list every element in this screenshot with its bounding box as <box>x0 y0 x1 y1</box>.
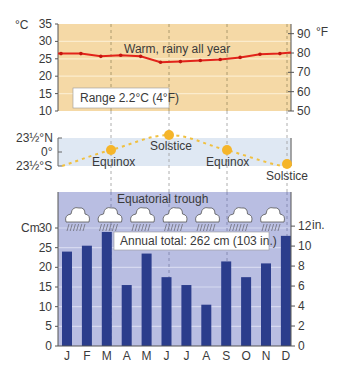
declination-south-label: 23½°S <box>16 159 52 173</box>
climograph: 101520253035 5060708090 °C °F Warm, rain… <box>0 0 340 372</box>
fahrenheit-tick: 90 <box>297 27 311 41</box>
cm-tick: 0 <box>45 339 52 353</box>
celsius-tick: 35 <box>39 17 53 31</box>
precipitation-bar <box>221 261 231 346</box>
precipitation-bar <box>162 277 172 346</box>
inch-tick: 12 <box>298 219 312 233</box>
temperature-title: Warm, rainy all year <box>124 42 230 56</box>
cm-tick: 10 <box>39 300 53 314</box>
celsius-tick: 10 <box>39 104 53 118</box>
trough-label: Equatorial trough <box>117 192 208 206</box>
month-label: N <box>262 349 271 363</box>
fahrenheit-tick: 70 <box>297 65 311 79</box>
temperature-panel: 101520253035 5060708090 °C °F Warm, rain… <box>15 17 328 118</box>
cm-tick: 20 <box>39 260 53 274</box>
month-axis: JFMAMJJASOND <box>64 349 291 363</box>
inch-tick: 0 <box>298 339 305 353</box>
inch-tick: 4 <box>298 299 305 313</box>
month-label: A <box>202 349 210 363</box>
inch-unit-label: in. <box>312 218 325 232</box>
range-note: Range 2.2°C (4°F) <box>80 91 179 105</box>
fahrenheit-tick: 60 <box>297 85 311 99</box>
precipitation-bar <box>201 305 211 346</box>
precipitation-bar <box>142 254 152 346</box>
precipitation-bar <box>82 246 92 346</box>
celsius-tick: 30 <box>39 34 53 48</box>
celsius-tick: 25 <box>39 52 53 66</box>
equinox-label-september: Equinox <box>206 155 249 169</box>
cm-tick: 15 <box>39 280 53 294</box>
fahrenheit-tick: 80 <box>297 46 311 60</box>
sun-icon <box>106 145 116 155</box>
month-label: M <box>142 349 152 363</box>
cm-tick: 30 <box>39 221 53 235</box>
month-label: O <box>241 349 250 363</box>
inch-tick: 6 <box>298 279 305 293</box>
cm-tick: 5 <box>45 319 52 333</box>
precipitation-bar <box>122 285 132 346</box>
celsius-unit-label: °C <box>15 18 29 32</box>
fahrenheit-tick: 50 <box>297 104 311 118</box>
month-label: A <box>123 349 131 363</box>
month-label: F <box>83 349 90 363</box>
month-label: J <box>164 349 170 363</box>
declination-north-label: 23½°N <box>16 131 53 145</box>
precipitation-panel: Equatorial trough 051015202530 024681012… <box>21 192 325 363</box>
month-label: S <box>222 349 230 363</box>
sun-icon <box>282 159 292 169</box>
equinox-label-march: Equinox <box>92 155 135 169</box>
sun-icon <box>222 145 232 155</box>
cm-tick: 25 <box>39 241 53 255</box>
solstice-label-december: Solstice <box>266 169 308 183</box>
solstice-label-june: Solstice <box>150 139 192 153</box>
celsius-tick: 15 <box>39 87 53 101</box>
precipitation-bar <box>281 236 291 346</box>
precipitation-bar <box>181 285 191 346</box>
precipitation-bar <box>241 277 251 346</box>
fahrenheit-unit-label: °F <box>316 25 328 39</box>
celsius-tick: 20 <box>39 69 53 83</box>
precipitation-bar <box>261 263 271 346</box>
temperature-axis-celsius: 101520253035 <box>39 17 58 118</box>
month-label: M <box>102 349 112 363</box>
inch-tick: 10 <box>298 239 312 253</box>
sun-declination-panel: 23½°N 0° 23½°S Equinox Solstice Equinox … <box>16 111 308 192</box>
precipitation-bar <box>102 232 112 346</box>
annual-total-note: Annual total: 262 cm (103 in.) <box>120 234 277 248</box>
inch-tick: 8 <box>298 259 305 273</box>
declination-zero-label: 0° <box>41 145 53 159</box>
inch-tick: 2 <box>298 319 305 333</box>
cm-unit-label: Cm <box>21 221 40 235</box>
month-label: J <box>64 349 70 363</box>
precipitation-bar <box>62 252 72 346</box>
month-label: D <box>282 349 291 363</box>
month-label: J <box>183 349 189 363</box>
